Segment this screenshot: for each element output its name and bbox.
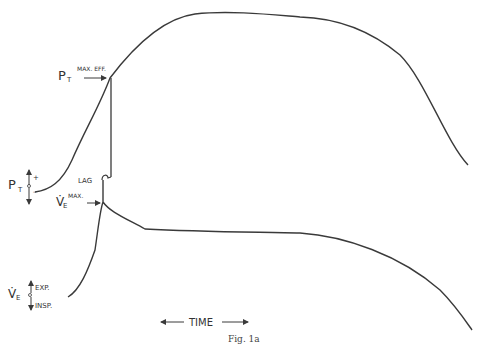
svg-text:E: E: [16, 294, 20, 302]
svg-text:P: P: [8, 177, 16, 192]
svg-text:–: –: [33, 188, 37, 196]
lag-hook: [102, 175, 111, 180]
time-axis-label: TIME: [161, 317, 248, 328]
ve-curve: [68, 180, 472, 330]
svg-text:INSP.: INSP.: [35, 302, 52, 310]
svg-text:MAX. EFF.: MAX. EFF.: [77, 65, 106, 72]
svg-text:MAX.: MAX.: [68, 192, 83, 199]
ve-max-label: V̇ E MAX.: [56, 192, 100, 210]
figure-1a: P T + – P T MAX. EFF. LAG V̇ E MAX. V̇ E…: [0, 0, 477, 356]
svg-text:E: E: [63, 202, 67, 210]
ve-axis-label: V̇ E EXP. INSP.: [8, 281, 52, 310]
pt-max-eff-label: P T MAX. EFF.: [58, 65, 106, 84]
svg-text:P: P: [58, 68, 66, 83]
svg-text:T: T: [66, 76, 72, 84]
svg-text:+: +: [33, 174, 39, 182]
figure-caption: Fig. 1a: [228, 334, 260, 344]
lag-label: LAG: [78, 177, 92, 185]
svg-text:T: T: [17, 186, 23, 194]
pt-axis-label: P T + –: [8, 170, 39, 204]
svg-text:TIME: TIME: [188, 317, 213, 328]
svg-text:EXP.: EXP.: [35, 284, 50, 292]
pt-curve: [35, 12, 468, 192]
